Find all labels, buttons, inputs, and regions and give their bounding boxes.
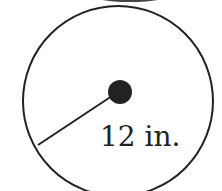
radius-label: 12 in.: [100, 120, 180, 153]
partial-shape-top: [88, 0, 172, 2]
circle-diagram: 12 in.: [0, 0, 222, 191]
center-point: [108, 80, 132, 104]
